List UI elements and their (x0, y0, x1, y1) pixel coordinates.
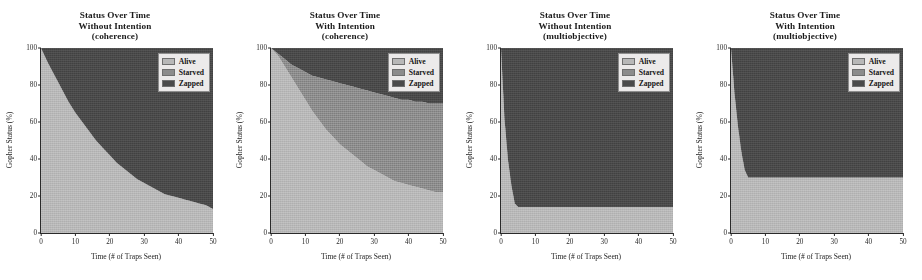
legend-label: Starved (409, 68, 434, 77)
y-tick-label: 80 (720, 81, 731, 89)
legend-item-starved[interactable]: Starved (622, 68, 664, 77)
panel-title: Status Over TimeWith Intention(multiobje… (690, 10, 920, 42)
legend-label: Zapped (179, 79, 204, 88)
y-tick-label: 40 (30, 155, 41, 163)
legend-label: Alive (409, 57, 426, 66)
y-tick-label: 60 (720, 118, 731, 126)
panel-title-line-1: With Intention (230, 21, 460, 32)
x-tick-label: 0 (269, 233, 273, 246)
y-tick-mark (498, 48, 501, 49)
figure-canvas: Status Over TimeWithout Intention(cohere… (0, 0, 922, 280)
panel-title-line-0: Status Over Time (460, 10, 690, 21)
y-tick-label: 80 (30, 81, 41, 89)
legend-item-zapped[interactable]: Zapped (162, 79, 204, 88)
x-tick-mark (75, 233, 76, 236)
x-tick-mark (765, 233, 766, 236)
y-tick-label: 100 (26, 44, 41, 52)
legend-item-alive[interactable]: Alive (392, 57, 434, 66)
legend-label: Zapped (869, 79, 894, 88)
y-tick-mark (38, 196, 41, 197)
legend-swatch-icon (162, 58, 175, 65)
legend-swatch-icon (852, 80, 865, 87)
panel-title: Status Over TimeWithout Intention(cohere… (0, 10, 230, 42)
y-tick-mark (268, 196, 271, 197)
x-tick-mark (834, 233, 835, 236)
legend-swatch-icon (622, 58, 635, 65)
chart-legend[interactable]: AliveStarvedZapped (848, 53, 900, 92)
chart-panel-1: Status Over TimeWith Intention(coherence… (230, 0, 460, 280)
x-tick-label: 40 (635, 233, 642, 246)
x-axis-label: Time (# of Traps Seen) (270, 252, 442, 261)
x-tick-mark (144, 233, 145, 236)
x-tick-mark (305, 233, 306, 236)
y-tick-label: 100 (486, 44, 501, 52)
legend-swatch-icon (392, 69, 405, 76)
x-tick-label: 20 (106, 233, 113, 246)
chart-legend[interactable]: AliveStarvedZapped (388, 53, 440, 92)
y-tick-label: 60 (490, 118, 501, 126)
y-tick-mark (268, 48, 271, 49)
axes: 02040608010001020304050AliveStarvedZappe… (730, 48, 903, 234)
legend-label: Starved (869, 68, 894, 77)
x-tick-label: 0 (499, 233, 503, 246)
legend-swatch-icon (852, 69, 865, 76)
y-axis-label: Gopher Status (%) (695, 112, 704, 169)
legend-label: Starved (639, 68, 664, 77)
x-tick-label: 10 (72, 233, 79, 246)
y-tick-mark (38, 85, 41, 86)
axes: 02040608010001020304050AliveStarvedZappe… (500, 48, 673, 234)
y-tick-label: 60 (260, 118, 271, 126)
panel-title-line-2: (coherence) (0, 31, 230, 42)
legend-item-starved[interactable]: Starved (162, 68, 204, 77)
legend-item-zapped[interactable]: Zapped (392, 79, 434, 88)
x-tick-mark (638, 233, 639, 236)
legend-item-starved[interactable]: Starved (852, 68, 894, 77)
panel-title-line-0: Status Over Time (690, 10, 920, 21)
y-tick-label: 60 (30, 118, 41, 126)
x-tick-mark (903, 233, 904, 236)
x-tick-label: 30 (141, 233, 148, 246)
panel-title: Status Over TimeWith Intention(coherence… (230, 10, 460, 42)
legend-item-starved[interactable]: Starved (392, 68, 434, 77)
legend-item-alive[interactable]: Alive (162, 57, 204, 66)
x-tick-label: 20 (796, 233, 803, 246)
legend-label: Zapped (409, 79, 434, 88)
legend-item-alive[interactable]: Alive (622, 57, 664, 66)
y-tick-mark (728, 85, 731, 86)
legend-swatch-icon (162, 69, 175, 76)
y-tick-label: 100 (716, 44, 731, 52)
x-tick-mark (868, 233, 869, 236)
legend-item-alive[interactable]: Alive (852, 57, 894, 66)
x-tick-label: 50 (669, 233, 676, 246)
x-tick-label: 40 (405, 233, 412, 246)
chart-legend[interactable]: AliveStarvedZapped (158, 53, 210, 92)
x-tick-mark (443, 233, 444, 236)
panel-title-line-0: Status Over Time (230, 10, 460, 21)
chart-panel-2: Status Over TimeWithout Intention(multio… (460, 0, 690, 280)
y-tick-label: 20 (260, 192, 271, 200)
x-axis-label: Time (# of Traps Seen) (730, 252, 902, 261)
y-tick-mark (498, 122, 501, 123)
x-tick-mark (569, 233, 570, 236)
legend-label: Alive (639, 57, 656, 66)
chart-panel-3: Status Over TimeWith Intention(multiobje… (690, 0, 920, 280)
x-tick-label: 0 (39, 233, 43, 246)
chart-legend[interactable]: AliveStarvedZapped (618, 53, 670, 92)
panel-title-line-2: (multiobjective) (460, 31, 690, 42)
x-tick-mark (109, 233, 110, 236)
legend-item-zapped[interactable]: Zapped (622, 79, 664, 88)
x-tick-mark (213, 233, 214, 236)
y-tick-label: 80 (260, 81, 271, 89)
legend-swatch-icon (392, 80, 405, 87)
x-tick-label: 30 (831, 233, 838, 246)
panel-title: Status Over TimeWithout Intention(multio… (460, 10, 690, 42)
x-tick-label: 30 (371, 233, 378, 246)
x-tick-label: 20 (566, 233, 573, 246)
y-tick-mark (268, 122, 271, 123)
y-tick-label: 100 (256, 44, 271, 52)
y-tick-mark (268, 85, 271, 86)
x-tick-mark (408, 233, 409, 236)
legend-item-zapped[interactable]: Zapped (852, 79, 894, 88)
x-tick-label: 20 (336, 233, 343, 246)
legend-swatch-icon (622, 69, 635, 76)
